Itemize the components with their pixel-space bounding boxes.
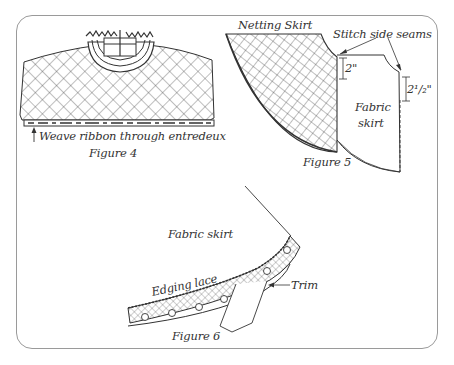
label-fabric: Fabric	[355, 102, 391, 114]
label-skirt: skirt	[358, 118, 384, 130]
label-trim: Trim	[291, 280, 318, 292]
label-weave-ribbon: Weave ribbon through entredeux	[39, 131, 226, 143]
label-fabric-skirt: Fabric skirt	[168, 229, 233, 241]
diagram-stage: Weave ribbon through entredeux Figure 4 …	[0, 0, 454, 365]
label-dimension-2in: 2"	[345, 63, 357, 75]
figure-5-caption: Figure 5	[303, 157, 351, 169]
figure-4-caption: Figure 4	[89, 148, 137, 160]
label-dimension-2-half-in: 2¹/₂"	[407, 84, 432, 96]
figure-6-drawing	[128, 186, 300, 332]
label-stitch-side-seams: Stitch side seams	[333, 29, 432, 41]
diagram-drawing	[0, 0, 454, 365]
label-netting-skirt: Netting Skirt	[238, 20, 312, 32]
figure-6-caption: Figure 6	[172, 331, 220, 343]
figure-4-drawing	[20, 30, 214, 142]
